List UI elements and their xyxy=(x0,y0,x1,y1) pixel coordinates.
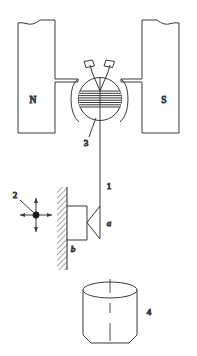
label-wall-bracket: b xyxy=(71,244,76,254)
label-vessel: 4 xyxy=(147,307,152,317)
coil-assembly xyxy=(76,72,124,121)
coil-vanes xyxy=(84,60,115,72)
label-force-cross: 2 xyxy=(13,190,18,200)
label-knife-edge: a xyxy=(107,218,112,228)
wall-bracket xyxy=(67,206,87,240)
diagram-canvas: N S xyxy=(0,0,197,356)
cylindrical-vessel xyxy=(83,279,137,343)
pole-label-north: N xyxy=(30,95,37,105)
magnet-pole-south xyxy=(121,20,179,133)
coil-core-leader xyxy=(89,118,96,137)
vane-left xyxy=(84,60,95,68)
technical-diagram: N S xyxy=(0,0,197,356)
knife-edge-wedge xyxy=(87,206,100,239)
label-coil-core: 3 xyxy=(84,138,89,148)
pole-label-south: S xyxy=(161,95,166,105)
magnet-pole-north xyxy=(18,20,78,133)
support-wall xyxy=(57,187,67,270)
label-suspension-wire: 1 xyxy=(107,181,112,191)
force-cross-node xyxy=(33,212,40,219)
force-direction-cross xyxy=(20,198,52,232)
